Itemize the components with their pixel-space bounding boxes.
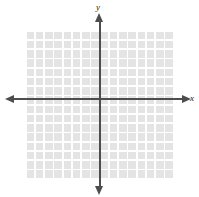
y-axis-label: y: [96, 3, 100, 12]
y-axis-down-arrowhead-icon: [95, 186, 103, 195]
y-axis-up-arrowhead-icon: [95, 13, 103, 22]
x-axis-label: x: [190, 94, 194, 103]
coordinate-plane-figure: x y: [0, 0, 199, 197]
x-axis-left-arrowhead-icon: [5, 95, 14, 103]
y-axis-line: [99, 21, 101, 189]
